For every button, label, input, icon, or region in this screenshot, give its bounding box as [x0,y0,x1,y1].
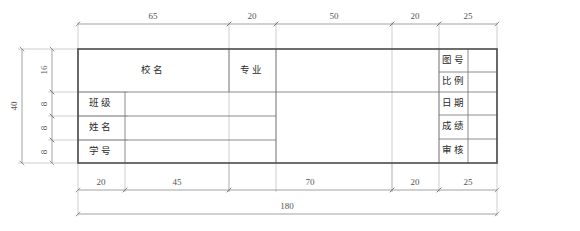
dim-overall-height-label: 40 [10,102,19,111]
cell-review-label: 审核 [442,146,466,156]
dim-top-label-1: 65 [149,12,158,21]
cell-scale-label: 比例 [442,77,466,87]
cell-major-label: 专业 [240,66,264,76]
dim-bottom-label-1: 20 [97,178,106,187]
dim-left-label-2: 8 [40,102,49,107]
cell-class-label: 班级 [89,99,113,109]
dim-top-label-3: 50 [330,12,339,21]
dim-top-label-5: 25 [464,12,473,21]
dim-left-label-1: 16 [40,66,49,75]
dimension-lines [22,24,497,214]
cell-date-label: 日期 [442,99,466,109]
dim-left-label-4: 8 [40,150,49,155]
cell-student-id-label: 学号 [89,147,113,157]
dim-bottom-label-3: 70 [306,178,315,187]
dim-overall-width-label: 180 [280,202,294,211]
dim-left-label-3: 8 [40,126,49,131]
cell-school-label: 校名 [141,66,165,76]
dim-bottom-label-4: 20 [411,178,420,187]
drawing-svg [0,0,580,231]
dim-top-label-4: 20 [411,12,420,21]
dim-bottom-label-2: 45 [173,178,182,187]
technical-drawing-canvas: 校名 专业 班级 姓名 学号 图号 比例 日期 成绩 审核 65 20 50 2… [0,0,580,231]
extension-lines [18,22,497,216]
cell-grade-label: 成绩 [442,122,466,132]
dim-top-label-2: 20 [248,12,257,21]
dim-bottom-label-5: 25 [464,178,473,187]
cell-name-label: 姓名 [89,123,113,133]
cell-drawing-no-label: 图号 [442,56,466,66]
